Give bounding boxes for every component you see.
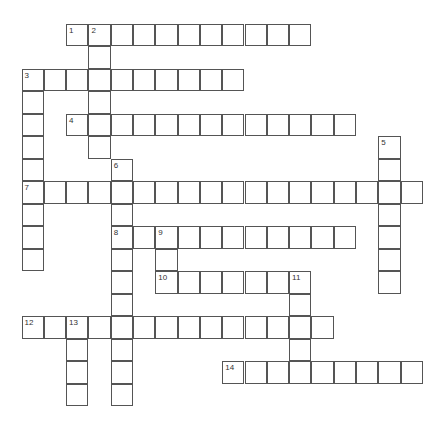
crossword-cell[interactable] — [133, 69, 155, 92]
crossword-cell[interactable] — [378, 271, 400, 294]
crossword-cell[interactable] — [178, 114, 200, 137]
crossword-cell[interactable] — [267, 361, 289, 384]
crossword-cell[interactable] — [222, 114, 244, 137]
crossword-cell[interactable] — [178, 24, 200, 47]
crossword-cell[interactable] — [111, 114, 133, 137]
crossword-cell[interactable] — [155, 316, 177, 339]
crossword-cell[interactable] — [22, 249, 44, 272]
crossword-cell[interactable] — [111, 69, 133, 92]
crossword-cell[interactable] — [88, 114, 110, 137]
crossword-cell[interactable] — [378, 249, 400, 272]
crossword-cell[interactable]: 5 — [378, 136, 400, 159]
crossword-cell[interactable] — [133, 316, 155, 339]
crossword-cell[interactable] — [334, 226, 356, 249]
crossword-cell[interactable]: 14 — [222, 361, 244, 384]
crossword-cell[interactable] — [178, 69, 200, 92]
crossword-cell[interactable] — [378, 361, 400, 384]
crossword-cell[interactable] — [66, 339, 88, 362]
crossword-cell[interactable] — [200, 181, 222, 204]
crossword-cell[interactable] — [289, 316, 311, 339]
crossword-cell[interactable] — [155, 181, 177, 204]
crossword-cell[interactable] — [289, 339, 311, 362]
crossword-cell[interactable]: 1 — [66, 24, 88, 47]
crossword-cell[interactable] — [22, 204, 44, 227]
crossword-cell[interactable]: 6 — [111, 159, 133, 182]
crossword-cell[interactable]: 9 — [155, 226, 177, 249]
crossword-cell[interactable]: 2 — [88, 24, 110, 47]
crossword-cell[interactable] — [155, 69, 177, 92]
crossword-cell[interactable] — [222, 226, 244, 249]
crossword-cell[interactable] — [88, 316, 110, 339]
crossword-cell[interactable] — [267, 181, 289, 204]
crossword-cell[interactable] — [356, 361, 378, 384]
crossword-cell[interactable] — [289, 24, 311, 47]
crossword-cell[interactable] — [22, 91, 44, 114]
crossword-cell[interactable] — [22, 114, 44, 137]
crossword-cell[interactable] — [200, 114, 222, 137]
crossword-cell[interactable] — [311, 114, 333, 137]
crossword-cell[interactable] — [111, 204, 133, 227]
crossword-cell[interactable] — [111, 249, 133, 272]
crossword-cell[interactable] — [66, 181, 88, 204]
crossword-cell[interactable]: 11 — [289, 271, 311, 294]
crossword-cell[interactable] — [88, 181, 110, 204]
crossword-cell[interactable] — [222, 271, 244, 294]
crossword-cell[interactable] — [66, 361, 88, 384]
crossword-cell[interactable] — [66, 69, 88, 92]
crossword-cell[interactable] — [155, 24, 177, 47]
crossword-cell[interactable] — [222, 69, 244, 92]
crossword-cell[interactable] — [133, 24, 155, 47]
crossword-cell[interactable] — [311, 361, 333, 384]
crossword-cell[interactable] — [88, 91, 110, 114]
crossword-cell[interactable] — [401, 361, 423, 384]
crossword-cell[interactable] — [111, 181, 133, 204]
crossword-cell[interactable] — [289, 181, 311, 204]
crossword-cell[interactable] — [178, 181, 200, 204]
crossword-cell[interactable]: 10 — [155, 271, 177, 294]
crossword-cell[interactable] — [334, 114, 356, 137]
crossword-cell[interactable] — [311, 181, 333, 204]
crossword-cell[interactable] — [200, 316, 222, 339]
crossword-cell[interactable] — [334, 361, 356, 384]
crossword-cell[interactable] — [378, 204, 400, 227]
crossword-cell[interactable] — [245, 114, 267, 137]
crossword-cell[interactable] — [245, 181, 267, 204]
crossword-cell[interactable] — [267, 24, 289, 47]
crossword-cell[interactable] — [133, 181, 155, 204]
crossword-cell[interactable]: 13 — [66, 316, 88, 339]
crossword-cell[interactable] — [133, 226, 155, 249]
crossword-cell[interactable] — [267, 271, 289, 294]
crossword-cell[interactable] — [44, 316, 66, 339]
crossword-cell[interactable] — [267, 226, 289, 249]
crossword-cell[interactable] — [378, 159, 400, 182]
crossword-cell[interactable] — [66, 384, 88, 407]
crossword-cell[interactable] — [311, 226, 333, 249]
crossword-cell[interactable] — [334, 181, 356, 204]
crossword-cell[interactable] — [88, 46, 110, 69]
crossword-cell[interactable] — [245, 24, 267, 47]
crossword-cell[interactable]: 12 — [22, 316, 44, 339]
crossword-cell[interactable] — [178, 226, 200, 249]
crossword-cell[interactable] — [88, 69, 110, 92]
crossword-cell[interactable] — [133, 114, 155, 137]
crossword-cell[interactable] — [200, 69, 222, 92]
crossword-cell[interactable] — [200, 271, 222, 294]
crossword-cell[interactable] — [378, 181, 400, 204]
crossword-cell[interactable] — [111, 384, 133, 407]
crossword-cell[interactable] — [289, 114, 311, 137]
crossword-cell[interactable] — [44, 181, 66, 204]
crossword-cell[interactable]: 3 — [22, 69, 44, 92]
crossword-cell[interactable] — [200, 226, 222, 249]
crossword-cell[interactable] — [22, 159, 44, 182]
crossword-cell[interactable] — [311, 316, 333, 339]
crossword-cell[interactable] — [111, 24, 133, 47]
crossword-cell[interactable] — [289, 294, 311, 317]
crossword-cell[interactable] — [22, 226, 44, 249]
crossword-cell[interactable] — [289, 226, 311, 249]
crossword-cell[interactable] — [178, 271, 200, 294]
crossword-cell[interactable]: 4 — [66, 114, 88, 137]
crossword-cell[interactable] — [111, 339, 133, 362]
crossword-cell[interactable] — [222, 316, 244, 339]
crossword-cell[interactable] — [378, 226, 400, 249]
crossword-cell[interactable] — [44, 69, 66, 92]
